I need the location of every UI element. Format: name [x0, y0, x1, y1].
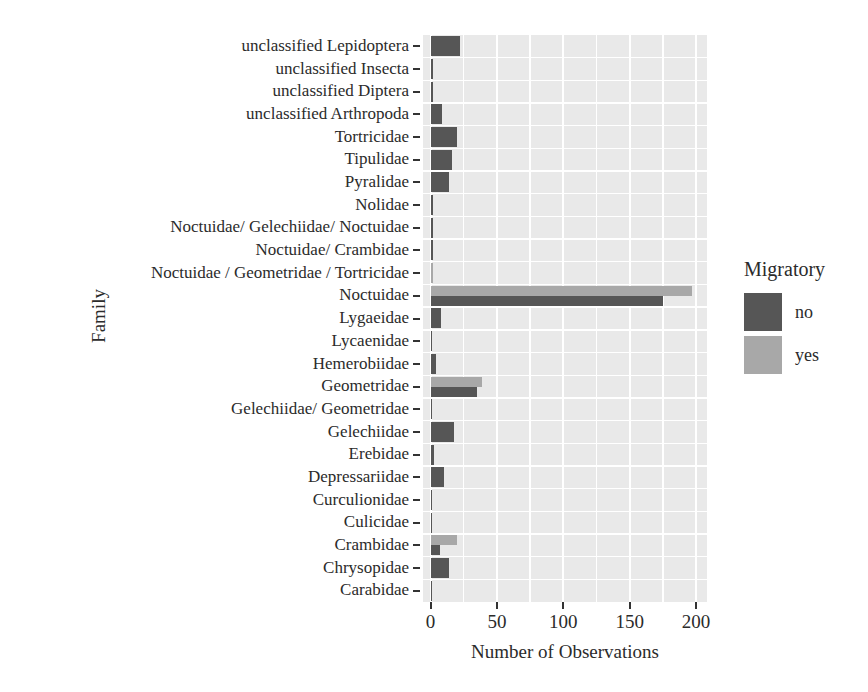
- legend-items: noyes: [744, 293, 825, 374]
- y-axis-label: Carabidae: [0, 579, 409, 602]
- bar-no: [431, 82, 434, 102]
- y-axis-label: unclassified Diptera: [0, 80, 409, 103]
- bar-no: [431, 513, 432, 533]
- x-axis-tick-label: 50: [487, 611, 506, 633]
- y-axis-tick: [413, 68, 420, 70]
- bar-yes: [431, 263, 434, 283]
- bar-row: [423, 284, 707, 307]
- x-axis-tick-label: 150: [615, 611, 644, 633]
- y-axis-tick: [413, 522, 420, 524]
- y-axis-label: Gelechiidae: [0, 421, 409, 444]
- y-axis-label: unclassified Insecta: [0, 58, 409, 81]
- bar-no: [431, 172, 450, 192]
- bar-no: [431, 127, 458, 147]
- y-axis-tick: [413, 91, 420, 93]
- bar-row: [423, 262, 707, 285]
- bar-no: [431, 445, 435, 465]
- x-axis-title: Number of Observations: [471, 641, 659, 663]
- bar-row: [423, 489, 707, 512]
- bar-no: [431, 581, 432, 601]
- x-axis-tick-label: 0: [426, 611, 436, 633]
- bar-no: [431, 354, 436, 374]
- y-axis-tick: [413, 113, 420, 115]
- bar-row: [423, 239, 707, 262]
- bar-row: [423, 353, 707, 376]
- y-axis-label: Depressariidae: [0, 466, 409, 489]
- bar-row: [423, 126, 707, 149]
- y-axis-label: Tortricidae: [0, 126, 409, 149]
- y-axis-label: Geometridae: [0, 375, 409, 398]
- y-axis-tick: [413, 340, 420, 342]
- y-axis-label: Lycaenidae: [0, 330, 409, 353]
- y-axis-tick: [413, 499, 420, 501]
- y-axis-label: Nolidae: [0, 194, 409, 217]
- legend-item-no: no: [744, 293, 825, 331]
- bar-no: [431, 104, 443, 124]
- legend-swatch-no: [744, 293, 782, 331]
- y-axis-label: Erebidae: [0, 443, 409, 466]
- y-axis-tick: [413, 386, 420, 388]
- bar-row: [423, 330, 707, 353]
- bar-row: [423, 466, 707, 489]
- y-axis-tick: [413, 567, 420, 569]
- y-axis-tick: [413, 454, 420, 456]
- y-axis-tick: [413, 159, 420, 161]
- bar-no: [431, 59, 434, 79]
- bar-row: [423, 443, 707, 466]
- bar-no: [431, 308, 442, 328]
- x-axis-tick: [629, 602, 631, 609]
- y-axis-tick: [413, 408, 420, 410]
- bar-yes: [431, 535, 458, 545]
- bar-yes: [431, 377, 483, 387]
- legend: Migratory noyes: [744, 258, 825, 379]
- bar-no: [431, 331, 432, 351]
- bar-no: [431, 36, 460, 56]
- bar-row: [423, 511, 707, 534]
- y-axis-tick: [413, 272, 420, 274]
- bar-no: [431, 218, 434, 238]
- y-axis-label: Noctuidae: [0, 284, 409, 307]
- bar-row: [423, 194, 707, 217]
- bar-no: [431, 490, 432, 510]
- bar-row: [423, 148, 707, 171]
- bar-row: [423, 80, 707, 103]
- y-axis-tick: [413, 318, 420, 320]
- y-axis-tick: [413, 295, 420, 297]
- bar-row: [423, 58, 707, 81]
- bar-row: [423, 171, 707, 194]
- legend-item-yes: yes: [744, 336, 825, 374]
- bar-no: [431, 150, 452, 170]
- y-axis-label: Chrysopidae: [0, 557, 409, 580]
- legend-label: yes: [795, 345, 819, 366]
- bar-no: [431, 387, 477, 397]
- y-axis-label: Gelechiidae/ Geometridae: [0, 398, 409, 421]
- y-axis-label: Culicidae: [0, 511, 409, 534]
- x-axis-tick: [430, 602, 432, 609]
- bar-row: [423, 398, 707, 421]
- bar-no: [431, 296, 663, 306]
- bar-yes: [431, 286, 693, 296]
- y-axis-label: Curculionidae: [0, 489, 409, 512]
- y-axis-label: Hemerobiidae: [0, 353, 409, 376]
- y-axis-label: unclassified Lepidoptera: [0, 35, 409, 58]
- bar-row: [423, 579, 707, 602]
- bar-no: [431, 422, 455, 442]
- bar-no: [431, 195, 434, 215]
- legend-title: Migratory: [744, 258, 825, 281]
- bar-row: [423, 35, 707, 58]
- bar-no: [431, 240, 434, 260]
- bar-row: [423, 307, 707, 330]
- y-axis-tick: [413, 181, 420, 183]
- y-axis-label: Noctuidae/ Crambidae: [0, 239, 409, 262]
- x-axis-tick-label: 200: [682, 611, 711, 633]
- x-axis-tick: [562, 602, 564, 609]
- bar-no: [431, 399, 432, 419]
- y-axis-tick: [413, 204, 420, 206]
- y-axis-label: Crambidae: [0, 534, 409, 557]
- y-axis-label: Lygaeidae: [0, 307, 409, 330]
- y-axis-tick: [413, 45, 420, 47]
- legend-label: no: [795, 302, 813, 323]
- bar-row: [423, 216, 707, 239]
- bar-row: [423, 534, 707, 557]
- bar-no: [431, 545, 440, 555]
